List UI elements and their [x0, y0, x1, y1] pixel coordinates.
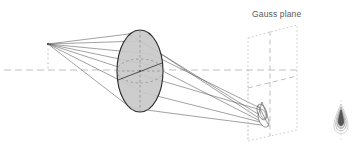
gauss-plane-group — [248, 25, 297, 141]
psf-inset-group — [334, 100, 348, 141]
psf-teardrop-core — [338, 110, 343, 126]
ray-outgoing-3 — [151, 54, 262, 109]
ray-outgoing-4 — [153, 66, 268, 125]
object-point-group — [47, 43, 49, 70]
caustic-cone-group — [255, 102, 269, 127]
gauss-plane-label: Gauss plane — [252, 9, 301, 19]
ray-outgoing-5 — [152, 78, 261, 110]
diagram-canvas: Gauss plane — [0, 0, 363, 159]
optical-diagram-figure: Gauss plane — [0, 0, 363, 159]
gauss-plane-horizontal-midline — [248, 76, 297, 88]
gauss-plane-outline — [248, 25, 297, 141]
lens-group — [117, 30, 163, 112]
lens-center-marker — [139, 70, 141, 72]
